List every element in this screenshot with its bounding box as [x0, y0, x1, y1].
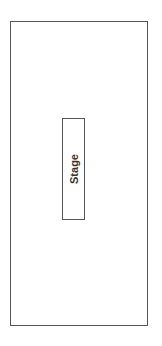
stage-box: Stage [62, 118, 85, 220]
stage-label: Stage [68, 154, 80, 184]
